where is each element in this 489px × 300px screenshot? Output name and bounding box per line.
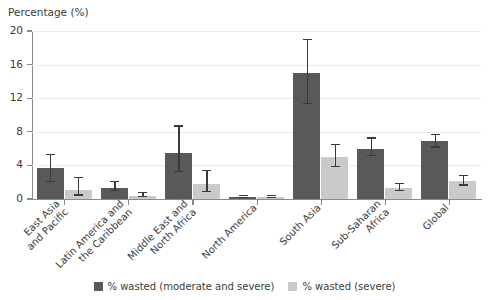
error-bar-cap bbox=[74, 194, 83, 195]
error-bar-cap bbox=[138, 196, 147, 197]
y-axis-title: Percentage (%) bbox=[8, 6, 89, 18]
error-bar-cap bbox=[174, 171, 183, 172]
error-bar bbox=[335, 145, 336, 167]
x-tick-mark bbox=[321, 200, 322, 205]
y-tick-label: 12 bbox=[0, 91, 23, 103]
error-bar-cap bbox=[46, 154, 55, 155]
error-bar-cap bbox=[367, 137, 376, 138]
error-bar-cap bbox=[239, 197, 248, 198]
error-bar bbox=[307, 40, 308, 104]
legend-label-severe: % wasted (severe) bbox=[302, 281, 395, 292]
error-bar-cap bbox=[267, 197, 276, 198]
bar-chart: Percentage (%) 048121620 East Asia and P… bbox=[0, 0, 489, 300]
y-tick-label: 16 bbox=[0, 58, 23, 70]
error-bar bbox=[371, 139, 372, 157]
y-tick-label: 0 bbox=[0, 192, 23, 204]
error-bar-cap bbox=[431, 146, 440, 147]
error-bar-cap bbox=[46, 181, 55, 182]
error-bar-cap bbox=[367, 155, 376, 156]
error-bar-cap bbox=[202, 191, 211, 192]
legend-label-moderate-and-severe: % wasted (moderate and severe) bbox=[108, 281, 275, 292]
x-tick-label: Middle East and North Africa bbox=[126, 198, 199, 271]
error-bar-cap bbox=[74, 177, 83, 178]
bar-group bbox=[101, 31, 156, 199]
bar-group bbox=[165, 31, 220, 199]
error-bar bbox=[78, 178, 79, 196]
x-tick-label: Sub-Saharan Africa bbox=[329, 198, 391, 260]
error-bar-cap bbox=[459, 175, 468, 176]
error-bar-cap bbox=[174, 125, 183, 126]
error-bar bbox=[206, 171, 207, 192]
y-tick-label: 4 bbox=[0, 158, 23, 170]
error-bar-cap bbox=[110, 190, 119, 191]
error-bar-cap bbox=[202, 170, 211, 171]
error-bar-cap bbox=[110, 181, 119, 182]
error-bar-cap bbox=[138, 192, 147, 193]
x-tick-mark bbox=[64, 200, 65, 205]
y-tick-label: 20 bbox=[0, 24, 23, 36]
bar-group bbox=[293, 31, 348, 199]
error-bar-cap bbox=[331, 166, 340, 167]
bar bbox=[421, 141, 448, 199]
x-axis-labels: East Asia and PacificLatin America and t… bbox=[0, 206, 489, 276]
error-bar bbox=[178, 127, 179, 172]
error-bar-cap bbox=[267, 195, 276, 196]
legend-item-severe: % wasted (severe) bbox=[288, 281, 395, 292]
x-tick-label: North America bbox=[199, 202, 258, 261]
error-bar-cap bbox=[303, 103, 312, 104]
bar-group bbox=[37, 31, 92, 199]
legend-item-moderate-and-severe: % wasted (moderate and severe) bbox=[94, 281, 275, 292]
y-tick-label: 8 bbox=[0, 125, 23, 137]
error-bar bbox=[50, 155, 51, 182]
bar-group bbox=[357, 31, 412, 199]
x-tick-mark bbox=[449, 200, 450, 205]
error-bar-cap bbox=[331, 144, 340, 145]
x-tick-mark bbox=[192, 200, 193, 205]
bar-group bbox=[421, 31, 476, 199]
x-tick-mark bbox=[128, 200, 129, 205]
error-bar-cap bbox=[239, 195, 248, 196]
error-bar-cap bbox=[431, 134, 440, 135]
x-tick-label: Global bbox=[420, 202, 451, 233]
legend-swatch-icon-dark bbox=[94, 282, 103, 291]
x-tick-label: East Asia and Pacific bbox=[16, 198, 70, 252]
x-tick-mark bbox=[257, 200, 258, 205]
x-tick-mark bbox=[385, 200, 386, 205]
bar-group bbox=[229, 31, 284, 199]
chart-legend: % wasted (moderate and severe) % wasted … bbox=[0, 281, 489, 292]
error-bar-cap bbox=[303, 39, 312, 40]
x-tick-label: South Asia bbox=[277, 202, 323, 248]
error-bar-cap bbox=[395, 190, 404, 191]
legend-swatch-icon-light bbox=[288, 282, 297, 291]
error-bar-cap bbox=[459, 184, 468, 185]
plot-area bbox=[32, 31, 481, 199]
error-bar-cap bbox=[395, 183, 404, 184]
